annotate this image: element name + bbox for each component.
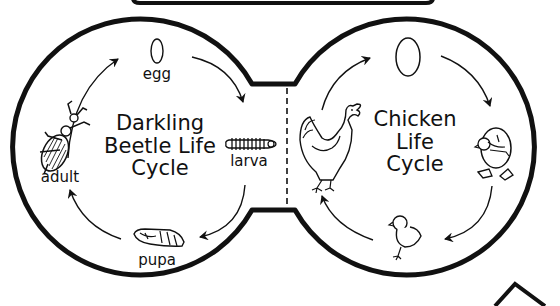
right-title-line-3: Cycle xyxy=(360,153,470,176)
life-cycle-diagram xyxy=(0,0,560,306)
right-cycle-title: Chicken Life Cycle xyxy=(360,108,470,176)
chick-icon xyxy=(389,216,421,260)
hatching-chick-icon xyxy=(475,128,513,180)
arrow-hen-to-egg xyxy=(322,58,370,110)
hen-icon xyxy=(300,104,361,193)
stage-label-pupa: pupa xyxy=(136,253,178,268)
mealworm-larva-icon xyxy=(226,138,276,150)
stage-label-larva: larva xyxy=(226,154,272,169)
right-title-line-1: Chicken xyxy=(360,108,470,131)
egg-icon xyxy=(396,38,420,76)
beetle-icon xyxy=(36,101,90,175)
stage-label-adult: adult xyxy=(38,170,82,185)
top-title-bar xyxy=(133,0,433,3)
oval-egg-icon xyxy=(151,39,163,63)
left-cycle-title: Darkling Beetle Life Cycle xyxy=(102,112,218,180)
left-title-line-2: Beetle Life xyxy=(102,135,218,158)
pupa-icon xyxy=(134,229,184,246)
left-title-line-3: Cycle xyxy=(102,157,218,180)
arrow-chick-to-hen xyxy=(322,196,373,240)
corner-outline xyxy=(495,284,545,306)
left-title-line-1: Darkling xyxy=(102,112,218,135)
arrow-hatching-to-chick xyxy=(445,186,492,239)
right-title-line-2: Life xyxy=(360,131,470,154)
arrow-pupa-to-adult xyxy=(70,190,121,239)
arrow-egg-to-hatching xyxy=(441,56,490,106)
stage-label-egg: egg xyxy=(140,67,174,82)
